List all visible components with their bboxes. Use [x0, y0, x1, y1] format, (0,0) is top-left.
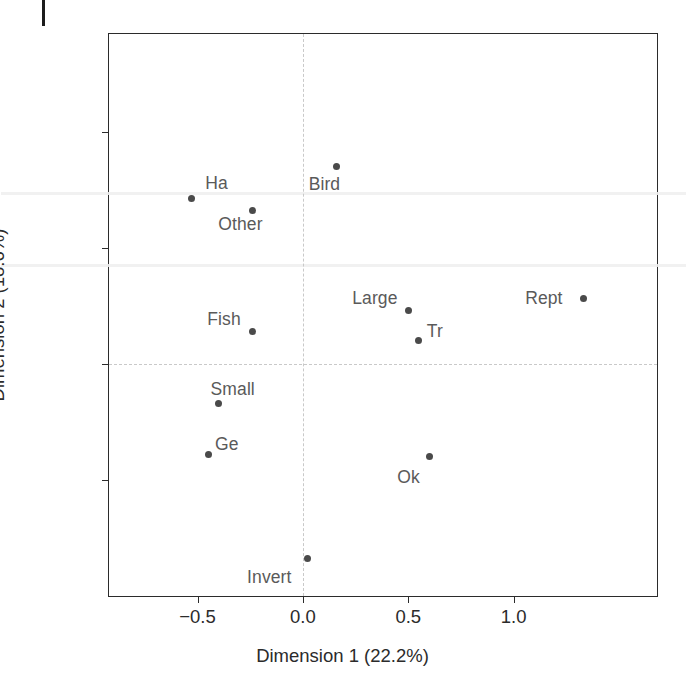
- data-point: [580, 295, 587, 302]
- x-axis-tick: [514, 596, 515, 603]
- data-point: [205, 451, 212, 458]
- data-point: [249, 328, 256, 335]
- y-axis-tick: [102, 480, 109, 481]
- data-point-label: Ok: [397, 467, 420, 488]
- x-axis-tick: [408, 596, 409, 603]
- x-axis-tick-label: −0.5: [179, 606, 216, 628]
- data-point: [405, 307, 412, 314]
- x-axis-title: Dimension 1 (22.2%): [0, 645, 685, 667]
- y-axis-tick: [102, 364, 109, 365]
- data-point: [426, 453, 433, 460]
- x-axis-tick-label: 1.0: [501, 606, 527, 628]
- y-axis-title: Dimension 2 (18.6%): [0, 229, 9, 402]
- data-point-label: Large: [352, 288, 397, 309]
- plot-area: 1.00.50.0−0.5−0.50.00.51.0HaOtherBirdRep…: [109, 34, 657, 596]
- data-point: [188, 195, 195, 202]
- data-point: [304, 555, 311, 562]
- x-axis-tick: [198, 596, 199, 603]
- y-axis-tick: [102, 248, 109, 249]
- data-point-label: Invert: [247, 567, 291, 588]
- data-point-label: Bird: [309, 174, 341, 195]
- data-point-label: Small: [211, 379, 255, 400]
- y-axis-tick: [102, 132, 109, 133]
- x-axis-tick: [303, 596, 304, 603]
- reference-line-horizontal: [109, 364, 657, 365]
- data-point: [249, 207, 256, 214]
- data-point-label: Ge: [215, 434, 239, 455]
- scan-artifact-band: [1, 192, 686, 195]
- scan-artifact-band: [1, 264, 686, 267]
- data-point: [333, 163, 340, 170]
- reference-line-vertical: [303, 34, 304, 596]
- data-point-label: Rept: [525, 288, 562, 309]
- data-point-label: Tr: [427, 321, 443, 342]
- x-axis-tick-label: 0.5: [395, 606, 421, 628]
- x-axis-tick-label: 0.0: [290, 606, 316, 628]
- data-point: [215, 400, 222, 407]
- plot-frame: 1.00.50.0−0.5−0.50.00.51.0HaOtherBirdRep…: [108, 33, 658, 597]
- crop-mark: [42, 0, 45, 26]
- data-point-label: Other: [218, 214, 262, 235]
- data-point: [415, 337, 422, 344]
- data-point-label: Ha: [205, 173, 228, 194]
- data-point-label: Fish: [207, 309, 240, 330]
